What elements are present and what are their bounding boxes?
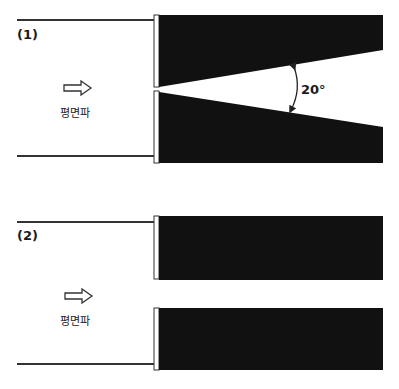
diagram-2: (2) 평면파 — [17, 216, 383, 370]
plane-wave-label: 평면파 — [60, 107, 90, 120]
wedge-block-bottom — [159, 92, 383, 163]
angle-arc — [291, 67, 297, 110]
slit-block-bottom — [159, 308, 383, 370]
slit-block-top — [159, 216, 383, 280]
baffle-strip-bottom — [154, 308, 159, 370]
wedge-block-top — [159, 15, 383, 87]
angle-label: 20° — [301, 82, 326, 97]
baffle-strip-top — [154, 15, 159, 87]
plane-wave-arrow-icon — [65, 289, 92, 303]
diagram-canvas: 20° (1) 평면파 (2) 평면파 — [0, 0, 399, 389]
plane-wave-arrow-icon — [64, 81, 91, 95]
diagram-1: 20° (1) 평면파 — [17, 15, 383, 163]
diagram-1-label: (1) — [17, 27, 38, 42]
diagram-2-label: (2) — [17, 228, 38, 243]
plane-wave-label: 평면파 — [60, 315, 90, 328]
baffle-strip-bottom — [154, 91, 159, 163]
baffle-strip-top — [154, 216, 159, 279]
